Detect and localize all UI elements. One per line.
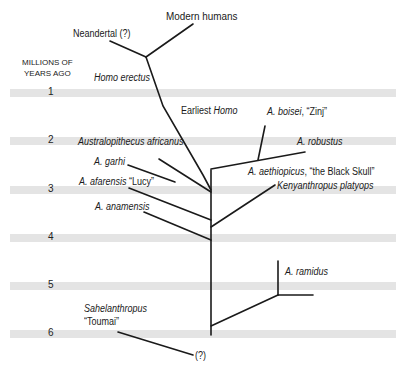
a-afarensis-nick: “Lucy”	[127, 176, 155, 187]
a-boisei-nick: , “Zinj”	[302, 106, 328, 117]
label-modern-humans: Modern humans	[166, 10, 238, 22]
label-earliest-homo: Earliest Homo	[181, 105, 238, 116]
label-unknown-origin: (?)	[195, 350, 206, 361]
label-homo-erectus: Homo erectus	[94, 72, 150, 83]
label-sahelanthropus: Sahelanthropus	[84, 303, 147, 314]
label-a-robustus: A. robustus	[297, 136, 343, 147]
label-neandertal: Neandertal (?)	[73, 28, 131, 39]
label-a-anamensis: A. anamensis	[95, 201, 150, 212]
label-au-africanus: Australopithecus africanus	[78, 136, 184, 147]
label-a-garhi: A. garhi	[94, 156, 125, 167]
earliest-homo-prefix: Earliest	[181, 105, 214, 116]
earliest-homo-genus: Homo	[214, 105, 238, 116]
a-boisei-name: A. boisei	[267, 106, 302, 117]
label-a-boisei: A. boisei, “Zinj”	[267, 106, 327, 117]
label-a-ramidus: A. ramidus	[285, 266, 328, 277]
a-aethiopicus-name: A. aethiopicus	[248, 166, 305, 177]
label-toumai: “Toumai”	[84, 316, 119, 327]
a-afarensis-name: A. afarensis	[79, 176, 127, 187]
label-kenyanthropus: Kenyanthropus platyops	[277, 180, 374, 191]
label-a-afarensis: A. afarensis “Lucy”	[79, 176, 154, 187]
a-aethiopicus-nick: , “the Black Skull”	[305, 166, 375, 177]
label-a-aethiopicus: A. aethiopicus, “the Black Skull”	[248, 166, 375, 177]
